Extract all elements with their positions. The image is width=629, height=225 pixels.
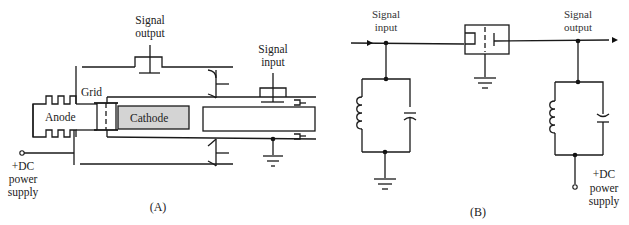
label-power-b-3: supply bbox=[589, 195, 620, 208]
tube-symbol bbox=[465, 25, 509, 54]
panel-b-equivalent-circuit: Signal input Signal output +DC power sup… bbox=[351, 8, 620, 219]
label-signal-input-b-2: input bbox=[375, 21, 398, 33]
inductor-output bbox=[550, 101, 555, 133]
label-power-b-1: +DC bbox=[593, 168, 616, 180]
inductor-input bbox=[357, 97, 362, 129]
diagram-canvas: Signal output Signal input Grid Anode Ca… bbox=[0, 0, 629, 225]
caption-b: (B) bbox=[470, 205, 486, 219]
label-signal-output-a-2: output bbox=[135, 27, 165, 40]
label-grid: Grid bbox=[81, 86, 102, 98]
capacitor-output bbox=[597, 114, 609, 117]
label-signal-output-a-1: Signal bbox=[135, 14, 164, 27]
label-cathode: Cathode bbox=[130, 112, 168, 124]
panel-a-lighthouse-tube: Signal output Signal input Grid Anode Ca… bbox=[8, 14, 316, 214]
label-power-a-3: supply bbox=[8, 186, 39, 199]
label-signal-output-b-1: Signal bbox=[564, 8, 592, 20]
label-signal-output-b-2: output bbox=[564, 21, 592, 33]
cathode-cylinder bbox=[203, 107, 315, 131]
label-power-b-2: power bbox=[590, 182, 619, 195]
label-signal-input-a-2: input bbox=[261, 56, 285, 69]
label-signal-input-b-1: Signal bbox=[372, 8, 400, 20]
output-arrow-icon bbox=[612, 37, 618, 43]
caption-a: (A) bbox=[150, 200, 167, 214]
input-arrow-icon bbox=[367, 40, 373, 46]
label-signal-input-a-1: Signal bbox=[258, 43, 287, 56]
label-anode: Anode bbox=[45, 111, 76, 123]
label-power-a-2: power bbox=[9, 173, 38, 186]
label-power-a-1: +DC bbox=[12, 160, 35, 172]
